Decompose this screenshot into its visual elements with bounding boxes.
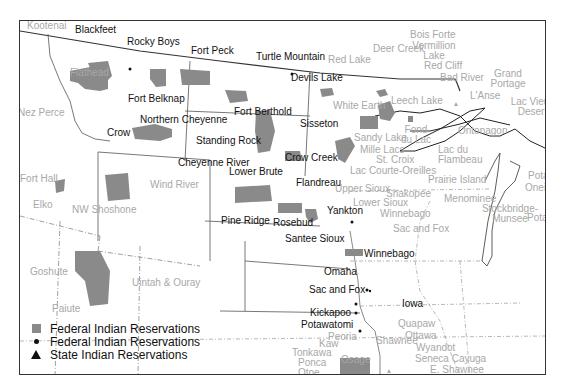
label-potawatomi-in: Potawatomi [527,213,546,223]
label-st-croix: St. Croix [376,155,414,165]
label-crow-creek: Crow Creek [285,153,338,163]
label-potawatomi: Potawatomi [301,320,353,330]
label-devils-lake: Devils Lake [291,73,343,83]
label-white-earth: White Earth [333,101,385,111]
label-prairie-island: Prairie Island [428,175,486,185]
dot-icon [30,336,42,348]
label-uintah-ouray: Uintah & Ouray [132,278,200,288]
label-leech-lake: Leech Lake [391,96,443,106]
label-oneida: Oneida [525,183,546,193]
label-sandy-lake: Sandy Lake [354,133,407,143]
label-sisseton: Sisseton [300,119,338,129]
legend-label: State Indian Reservations [50,348,187,362]
label-goshute: Goshute [30,267,68,277]
legend-label: Federal Indian Reservations [50,322,200,336]
label-red-lake: Red Lake [328,55,371,65]
triangle-icon [30,349,42,361]
label-kootenai: Kootenai [27,21,66,31]
legend-row-state: State Indian Reservations [30,348,200,361]
label-fort-berthold: Fort Berthold [234,107,292,117]
label-rosebud: Rosebud [273,218,313,228]
label-sac-and-fox-ia: Sac and Fox [393,224,449,234]
label-ontonagon: Ontonagon [458,126,508,136]
label-fort-hall: Fort Hall [20,174,58,184]
label-fort-belknap: Fort Belknap [128,94,185,104]
label-potawatomi-mi: Potawatomi [528,171,546,181]
map-legend: Federal Indian Reservations Federal Indi… [30,322,200,361]
label-bois-forte: Bois Forte [410,30,456,40]
label-bad-river: Bad River [440,73,484,83]
label-quapaw: Quapaw [398,319,435,329]
label-otoe: Otoe [298,368,320,375]
label-wind-river: Wind River [150,180,199,190]
label-nez-perce: Nez Perce [19,108,65,118]
legend-row-federal-area: Federal Indian Reservations [30,322,200,335]
label-ottawa: Ottawa [405,331,437,341]
label-lac-courte-oreilles: Lac Courte-Oreilles [350,166,436,176]
label-flathead: Flathead [70,68,109,78]
label-fond-du-lac: Fond du Lac [400,125,432,145]
label-santee-sioux: Santee Sioux [285,234,345,244]
label-wyandot: Wyandot [416,343,455,353]
label-lower-brute: Lower Brute [229,167,283,177]
label-lower-sioux: Lower Sioux [353,198,408,208]
label-crow: Crow [107,128,130,138]
label-nw-shoshone: NW Shoshone [72,205,136,215]
label-sac-and-fox: Sac and Fox [309,285,365,295]
label-rocky-boys: Rocky Boys [127,37,180,47]
label-grand-portage: Grand Portage [488,69,528,89]
label-lanse: L'Anse [470,91,500,101]
label-omaha: Omaha [324,267,357,277]
label-fort-peck: Fort Peck [191,46,234,56]
legend-row-federal-point: Federal Indian Reservations [30,335,200,348]
label-vermillion-lake: Vermillion Lake [410,41,458,61]
label-turtle-mountain: Turtle Mountain [256,52,325,62]
label-seneca-cayuga: Seneca Cayuga [415,354,486,364]
label-elko: Elko [33,200,52,210]
label-upper-sioux: Upper Sioux [335,184,390,194]
label-pine-ridge: Pine Ridge [221,216,270,226]
label-kickapoo: Kickapoo [310,308,351,318]
label-blackfeet: Blackfeet [75,25,116,35]
legend-label: Federal Indian Reservations [50,335,200,349]
label-winnebago: Winnebago [364,249,415,259]
label-lac-du-flambeau: Lac du Flambeau [438,145,483,165]
label-red-cliff: Red Cliff [424,61,462,71]
label-e-shawnee: E. Shawnee [430,365,484,375]
label-osage: Osage [341,355,370,365]
label-lac-vieux-desert: Lac Vieux Desert [510,97,546,117]
label-northern-cheyenne: Northern Cheyenne [140,115,227,125]
label-standing-rock: Standing Rock [196,136,261,146]
label-winnebago-wi: Winnebago [380,209,431,219]
square-icon [30,323,42,335]
label-iowa: Iowa [402,299,423,309]
label-paiute: Paiute [52,304,80,314]
